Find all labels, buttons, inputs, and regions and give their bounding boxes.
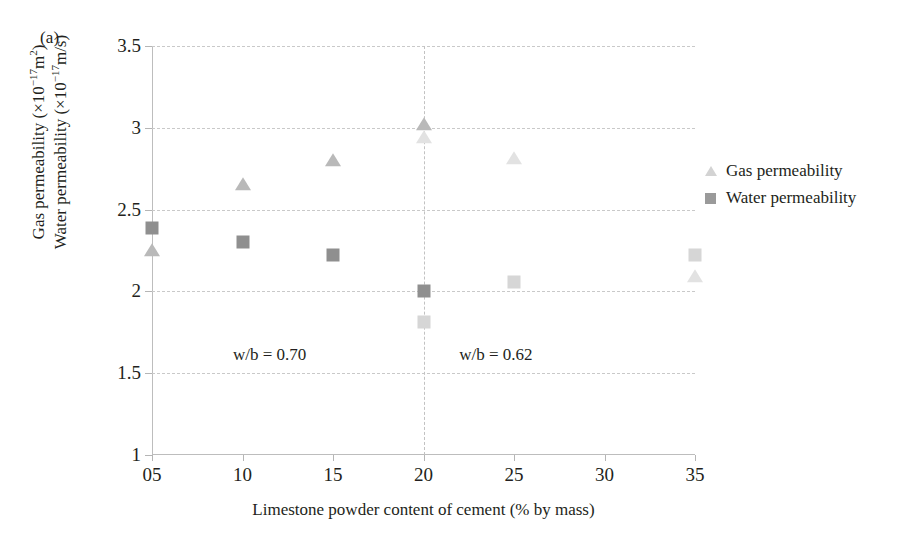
y-axis-title-line-gas: Gas permeability (×10−17m2) <box>28 45 50 240</box>
x-axis-title: Limestone powder content of cement (% by… <box>152 500 695 520</box>
x-axis-tick-label: 25 <box>505 464 524 486</box>
x-axis-tick-label: 30 <box>595 464 614 486</box>
data-point-triangle <box>416 117 432 130</box>
data-point-triangle <box>416 130 432 143</box>
x-axis-tick <box>152 455 153 461</box>
data-point-square <box>146 221 159 234</box>
y-axis-tick-label: 1 <box>132 444 142 466</box>
y-axis-tick <box>145 373 152 374</box>
square-icon <box>704 192 717 205</box>
y-axis-tick-label: 1.5 <box>117 362 141 384</box>
x-axis-tick-label: 20 <box>414 464 433 486</box>
x-axis-tick-label: 35 <box>686 464 705 486</box>
data-point-triangle <box>325 153 341 166</box>
data-point-square <box>508 275 521 288</box>
data-point-triangle <box>144 243 160 256</box>
data-point-square <box>327 249 340 262</box>
figure-panel-a: (a) Gas permeability (×10−17m2) Water pe… <box>0 0 923 550</box>
chart-legend: Gas permeabilityWater permeability <box>704 161 856 208</box>
data-point-square <box>689 249 702 262</box>
x-axis-tick <box>514 455 515 461</box>
legend-item: Gas permeability <box>704 161 856 181</box>
x-axis-tick <box>333 455 334 461</box>
data-point-triangle <box>506 151 522 164</box>
plot-area: 11.522.533.505101520253035 w/b = 0.70w/b… <box>152 46 695 455</box>
x-axis-tick <box>243 455 244 461</box>
annotation-water-binder-ratio: w/b = 0.62 <box>459 345 532 365</box>
x-axis-tick <box>605 455 606 461</box>
legend-item: Water permeability <box>704 188 856 208</box>
y-axis-title-line-water: Water permeability (×10−17m/s) <box>50 35 72 249</box>
y-axis-tick-label: 2 <box>132 280 142 302</box>
x-axis-tick <box>424 455 425 461</box>
annotation-water-binder-ratio: w/b = 0.70 <box>233 345 306 365</box>
y-axis-title: Gas permeability (×10−17m2) Water permea… <box>28 0 72 312</box>
triangle-icon <box>704 165 717 178</box>
legend-item-label: Water permeability <box>726 188 856 208</box>
x-axis-tick <box>695 455 696 461</box>
y-axis-tick <box>145 291 152 292</box>
y-axis-tick <box>145 210 152 211</box>
legend-item-label: Gas permeability <box>726 161 843 181</box>
data-point-square <box>417 316 430 329</box>
group-divider-line <box>424 46 425 455</box>
y-axis-tick <box>145 128 152 129</box>
data-point-triangle <box>235 177 251 190</box>
x-axis-tick-label: 05 <box>143 464 162 486</box>
x-axis-tick-label: 15 <box>324 464 343 486</box>
y-axis-tick-label: 2.5 <box>117 199 141 221</box>
data-point-square <box>236 236 249 249</box>
data-point-triangle <box>687 269 703 282</box>
x-axis-tick-label: 10 <box>233 464 252 486</box>
data-point-square <box>417 285 430 298</box>
y-axis-tick-label: 3.5 <box>117 35 141 57</box>
y-axis-tick <box>145 455 152 456</box>
y-axis-tick-label: 3 <box>132 117 142 139</box>
y-axis-tick <box>145 46 152 47</box>
